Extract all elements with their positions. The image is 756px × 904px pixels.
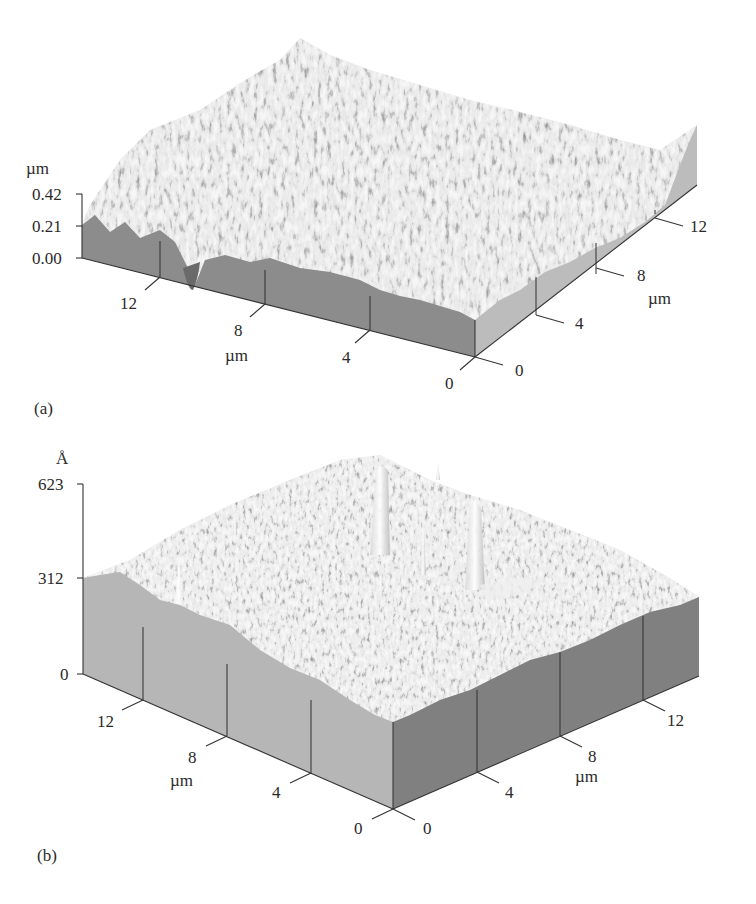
z-tick-b-bottom: 0 — [60, 666, 69, 683]
x-unit-b: µm — [170, 772, 193, 789]
y-tick-b-4: 4 — [505, 784, 514, 801]
y-tick-a-12: 12 — [690, 218, 707, 235]
y-tick-b-0: 0 — [423, 820, 432, 837]
z-unit-b: Å — [56, 450, 68, 467]
x-tick-b-0: 0 — [354, 820, 363, 837]
panel-label-b: (b) — [37, 846, 57, 866]
x-tick-a-12: 12 — [120, 295, 137, 312]
y-tick-a-8: 8 — [637, 267, 646, 284]
figure-canvas — [0, 0, 756, 904]
z-tick-b-top: 623 — [38, 476, 64, 493]
x-tick-a-0: 0 — [445, 375, 454, 392]
x-tick-a-8: 8 — [234, 322, 243, 339]
panel-a — [76, 30, 700, 370]
y-unit-b: µm — [575, 768, 598, 785]
z-tick-a-top: 0.42 — [32, 186, 62, 203]
x-tick-b-12: 12 — [97, 713, 114, 730]
z-unit-a: µm — [26, 160, 49, 177]
y-tick-a-4: 4 — [575, 315, 584, 332]
x-unit-a: µm — [225, 347, 248, 364]
y-tick-b-8: 8 — [588, 748, 597, 765]
y-tick-b-12: 12 — [667, 712, 684, 729]
z-axis-a — [76, 194, 82, 258]
panel-b — [77, 440, 705, 820]
z-tick-a-bottom: 0.00 — [32, 250, 62, 267]
z-tick-b-mid: 312 — [38, 570, 64, 587]
z-axis-b — [77, 484, 83, 674]
y-unit-a: µm — [648, 290, 671, 307]
x-tick-a-4: 4 — [342, 349, 351, 366]
x-tick-b-4: 4 — [272, 784, 281, 801]
x-tick-b-8: 8 — [188, 749, 197, 766]
z-tick-a-mid: 0.21 — [32, 218, 62, 235]
panel-label-a: (a) — [34, 399, 53, 419]
y-tick-a-0: 0 — [515, 362, 524, 379]
